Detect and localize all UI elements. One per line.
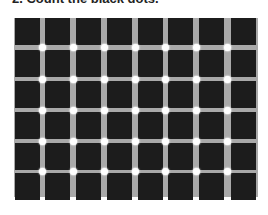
intersection-dot (193, 107, 200, 114)
grid-square (138, 143, 163, 170)
grid-square (107, 143, 132, 170)
grid-square (107, 50, 132, 77)
intersection-dot (132, 107, 139, 114)
intersection-dot (193, 76, 200, 83)
intersection-dot (101, 76, 108, 83)
grid-square (15, 81, 40, 108)
intersection-dot (162, 107, 169, 114)
intersection-dot (101, 168, 108, 175)
intersection-dot (70, 44, 77, 51)
grid-square (231, 173, 256, 200)
intersection-dot (162, 44, 169, 51)
grid-square (76, 50, 101, 77)
grid-square (15, 143, 40, 170)
intersection-dot (70, 107, 77, 114)
intersection-dot (162, 76, 169, 83)
grid-square (15, 173, 40, 200)
intersection-dot (224, 76, 231, 83)
intersection-dot (70, 76, 77, 83)
intersection-dot (224, 168, 231, 175)
intersection-dot (224, 44, 231, 51)
grid-square (107, 173, 132, 200)
intersection-dot (162, 168, 169, 175)
intersection-dot (132, 76, 139, 83)
grid-square (76, 112, 101, 139)
intersection-dot (132, 168, 139, 175)
grid-square (199, 173, 224, 200)
grid-square (76, 173, 101, 200)
grid-square (45, 173, 70, 200)
intersection-dot (193, 168, 200, 175)
intersection-dot (70, 138, 77, 145)
intersection-dot (101, 138, 108, 145)
grid-square (231, 112, 256, 139)
grid-square (231, 50, 256, 77)
grid-square (199, 112, 224, 139)
grid-square (231, 18, 256, 45)
grid-square (168, 50, 193, 77)
grid-square (168, 112, 193, 139)
intersection-dot (101, 44, 108, 51)
grid-square (45, 112, 70, 139)
grid-square (168, 18, 193, 45)
grid-square (107, 18, 132, 45)
grid-square (138, 18, 163, 45)
grid-square (199, 81, 224, 108)
grid-square (199, 18, 224, 45)
grid-square (168, 173, 193, 200)
intersection-dot (70, 168, 77, 175)
grid-square (15, 50, 40, 77)
grid-square (138, 173, 163, 200)
grid-square (138, 81, 163, 108)
grid-square (168, 143, 193, 170)
intersection-dot (39, 76, 46, 83)
grid-square (138, 50, 163, 77)
grid-square (45, 18, 70, 45)
intersection-dot (132, 44, 139, 51)
intersection-dot (224, 107, 231, 114)
grid-square (231, 81, 256, 108)
intersection-dot (132, 138, 139, 145)
scintillating-grid-figure (14, 18, 258, 197)
grid-square (45, 81, 70, 108)
intersection-dot (101, 107, 108, 114)
grid-square (15, 112, 40, 139)
intersection-dot (39, 138, 46, 145)
grid-square (138, 112, 163, 139)
intersection-dot (39, 44, 46, 51)
grid-square (76, 18, 101, 45)
intersection-dot (193, 44, 200, 51)
grid-square (76, 81, 101, 108)
grid-square (168, 81, 193, 108)
intersection-dot (193, 138, 200, 145)
grid-square (45, 143, 70, 170)
grid-square (107, 112, 132, 139)
grid-square (199, 50, 224, 77)
grid-square (107, 81, 132, 108)
grid-square (199, 143, 224, 170)
intersection-dot (39, 107, 46, 114)
intersection-dot (162, 138, 169, 145)
grid-square (76, 143, 101, 170)
intersection-dot (224, 138, 231, 145)
question-title: 2. Count the black dots. (12, 0, 159, 6)
grid-square (15, 18, 40, 45)
grid-square (45, 50, 70, 77)
grid-square (231, 143, 256, 170)
intersection-dot (39, 168, 46, 175)
